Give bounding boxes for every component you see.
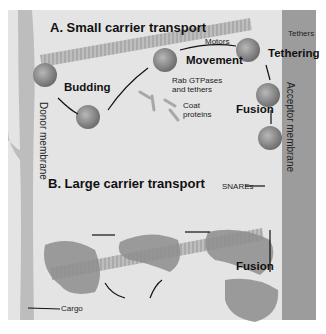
step-movement: Movement	[186, 54, 243, 66]
step-fusion-a: Fusion	[236, 103, 274, 115]
label-tethers: Tethers	[288, 29, 314, 38]
step-tethering: Tethering	[268, 47, 320, 59]
panel-a-title: A. Small carrier transport	[50, 20, 206, 35]
step-budding: Budding	[64, 81, 111, 93]
label-cargo: Cargo	[61, 304, 83, 313]
label-acceptor-membrane: Acceptor membrane	[285, 82, 296, 172]
vesicle-fusing	[258, 126, 282, 150]
label-motors: Motors	[205, 37, 229, 46]
panel-b-title: B. Large carrier transport	[48, 176, 205, 191]
vesicle-moving	[153, 48, 177, 72]
vesicle-budding-2	[76, 105, 100, 129]
step-fusion-b: Fusion	[236, 260, 274, 272]
label-snares: SNAREs	[222, 182, 254, 191]
label-donor-membrane: Donor membrane	[38, 102, 49, 180]
label-coat-proteins: Coatproteins	[183, 101, 211, 119]
vesicle-budding-1	[33, 63, 57, 87]
label-rab-gtpases: Rab GTPasesand tethers	[172, 76, 222, 94]
membrane-transport-diagram: A. Small carrier transport B. Large carr…	[0, 0, 326, 334]
